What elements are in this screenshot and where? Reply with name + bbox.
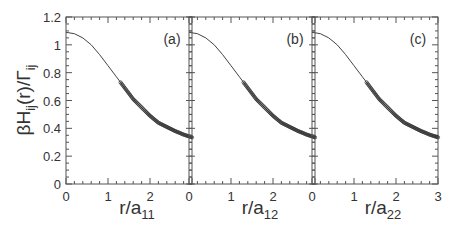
x-tick-label: 2 [146, 189, 153, 204]
x-tick-label: 1 [350, 189, 357, 204]
x-tick-label: 3 [434, 189, 441, 204]
panel-label: (b) [286, 31, 303, 47]
theory-line [66, 32, 192, 137]
x-tick-label: 0 [62, 189, 69, 204]
chart: 012r/a11(a)012r/a12(b)0123r/a22(c) 00.20… [0, 0, 460, 225]
x-tick-label: 0 [308, 189, 315, 204]
panel-b: 012r/a12(b) [185, 17, 316, 222]
y-tick-label: 0.8 [43, 66, 61, 81]
x-tick-label: 2 [269, 189, 276, 204]
theory-line [312, 32, 438, 137]
y-tick-label: 0.4 [43, 121, 61, 136]
panel-label: (a) [163, 31, 180, 47]
y-tick-label: 0.2 [43, 149, 61, 164]
panel-label: (c) [410, 31, 426, 47]
theory-line [189, 32, 315, 137]
x-tick-label: 1 [227, 189, 234, 204]
y-tick-label: 1.2 [43, 10, 61, 25]
x-tick-label: 0 [185, 189, 192, 204]
panels: 012r/a11(a)012r/a12(b)0123r/a22(c) [62, 17, 441, 222]
y-axis-label: βHij(r)/Γij [13, 64, 38, 135]
y-tick-labels: 00.20.40.60.811.2 [43, 10, 61, 192]
panel-c: 0123r/a22(c) [308, 17, 441, 222]
y-tick-label: 0.6 [43, 94, 61, 109]
y-tick-label: 1 [54, 38, 61, 53]
x-tick-label: 2 [392, 189, 399, 204]
y-tick-label: 0 [54, 177, 61, 192]
x-tick-label: 1 [104, 189, 111, 204]
panel-a: 012r/a11(a) [62, 17, 193, 222]
